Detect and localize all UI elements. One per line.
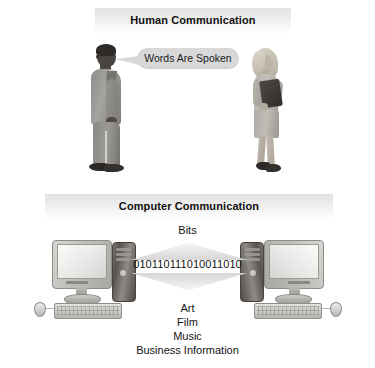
man-ear xyxy=(96,54,100,59)
speech-bubble: Words Are Spoken xyxy=(137,48,239,69)
speech-bubble-text: Words Are Spoken xyxy=(144,52,231,64)
woman-heel-right xyxy=(266,164,281,172)
content-label-music: Music xyxy=(0,330,375,342)
human-communication-title: Human Communication xyxy=(95,8,291,26)
tower-drive-bay xyxy=(245,253,260,256)
content-label-film: Film xyxy=(0,316,375,328)
man-arm xyxy=(106,79,119,121)
human-communication-banner: Human Communication xyxy=(95,8,291,34)
woman-skirt xyxy=(254,110,279,138)
monitor-buttons-right xyxy=(288,281,310,284)
bits-label: Bits xyxy=(0,224,375,236)
man-shoe-front xyxy=(104,164,124,172)
woman-figure xyxy=(245,48,293,174)
binary-stream-label: 010110111010011010 xyxy=(0,258,375,270)
content-label-art: Art xyxy=(0,302,375,314)
computer-communication-title: Computer Communication xyxy=(45,194,333,212)
tower-power-button[interactable] xyxy=(120,270,126,276)
tower-drive-bay xyxy=(245,248,260,251)
communication-diagram: Human Communication Words Are Spoken xyxy=(0,0,375,368)
computer-communication-banner: Computer Communication xyxy=(45,194,333,220)
downward-arrow-shape xyxy=(131,273,247,290)
monitor-buttons-left xyxy=(66,281,88,284)
speech-bubble-tail xyxy=(115,56,139,65)
man-leg-separation xyxy=(105,131,107,165)
tower-power-button[interactable] xyxy=(250,270,256,276)
tower-drive-bay xyxy=(116,253,131,256)
content-label-business-information: Business Information xyxy=(0,344,375,356)
tower-drive-bay xyxy=(116,248,131,251)
